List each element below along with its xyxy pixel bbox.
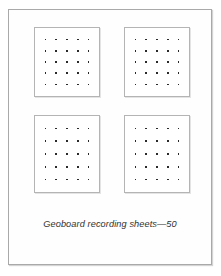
geoboard-peg-dot <box>156 72 158 74</box>
dot-cell <box>72 122 83 135</box>
dot-cell <box>130 160 141 173</box>
dot-grid-bottom-left <box>35 116 99 192</box>
geoboard-peg-dot <box>45 179 47 181</box>
geoboard-peg-dot <box>55 140 57 142</box>
dot-cell <box>152 56 163 67</box>
dot-cell <box>83 68 94 79</box>
dot-cell <box>173 68 184 79</box>
geoboard-peg-dot <box>156 84 158 86</box>
dot-cell <box>141 122 152 135</box>
geoboard-bottom-right[interactable] <box>124 115 190 193</box>
dot-cell <box>40 122 51 135</box>
geoboard-peg-dot <box>178 72 180 74</box>
dot-cell <box>130 68 141 79</box>
dot-cell <box>83 173 94 186</box>
geoboard-peg-dot <box>135 84 137 86</box>
dot-cell <box>130 148 141 161</box>
geoboard-peg-dot <box>77 153 79 155</box>
dot-cell <box>83 148 94 161</box>
worksheet-page: Geoboard recording sheets—50 <box>0 0 221 276</box>
dot-cell <box>83 135 94 148</box>
dot-cell <box>130 135 141 148</box>
dot-grid-top-right <box>125 28 189 96</box>
dot-cell <box>51 160 62 173</box>
dot-cell <box>141 45 152 56</box>
dot-cell <box>83 160 94 173</box>
geoboard-top-left[interactable] <box>34 27 100 97</box>
geoboard-peg-dot <box>45 153 47 155</box>
dot-cell <box>141 135 152 148</box>
dot-cell <box>62 68 73 79</box>
geoboard-peg-dot <box>55 50 57 52</box>
geoboard-peg-dot <box>156 39 158 41</box>
dot-cell <box>62 160 73 173</box>
dot-cell <box>72 45 83 56</box>
geoboard-peg-dot <box>145 72 147 74</box>
geoboard-peg-dot <box>156 61 158 63</box>
dot-cell <box>40 148 51 161</box>
dot-cell <box>152 135 163 148</box>
dot-cell <box>130 34 141 45</box>
dot-cell <box>72 173 83 186</box>
geoboard-peg-dot <box>45 72 47 74</box>
geoboard-peg-dot <box>156 166 158 168</box>
dot-cell <box>130 122 141 135</box>
geoboard-peg-dot <box>156 153 158 155</box>
geoboard-peg-dot <box>145 50 147 52</box>
dot-cell <box>141 173 152 186</box>
dot-cell <box>40 68 51 79</box>
dot-cell <box>162 68 173 79</box>
geoboard-peg-dot <box>88 140 90 142</box>
geoboard-peg-dot <box>145 179 147 181</box>
geoboard-peg-dot <box>88 166 90 168</box>
dot-cell <box>62 45 73 56</box>
dot-cell <box>40 79 51 90</box>
dot-cell <box>141 79 152 90</box>
dot-cell <box>72 68 83 79</box>
geoboard-peg-dot <box>55 166 57 168</box>
geoboard-peg-dot <box>77 84 79 86</box>
dot-cell <box>141 68 152 79</box>
dot-cell <box>40 45 51 56</box>
geoboard-peg-dot <box>135 166 137 168</box>
dot-cell <box>40 34 51 45</box>
dot-cell <box>162 135 173 148</box>
geoboard-peg-dot <box>178 61 180 63</box>
dot-cell <box>152 79 163 90</box>
dot-cell <box>72 148 83 161</box>
geoboard-peg-dot <box>88 39 90 41</box>
geoboard-peg-dot <box>45 166 47 168</box>
geoboard-peg-dot <box>145 140 147 142</box>
dot-cell <box>51 79 62 90</box>
dot-cell <box>62 135 73 148</box>
dot-cell <box>62 148 73 161</box>
geoboard-peg-dot <box>135 128 137 130</box>
geoboard-peg-dot <box>178 166 180 168</box>
geoboard-peg-dot <box>66 50 68 52</box>
geoboard-peg-dot <box>55 179 57 181</box>
geoboard-peg-dot <box>178 128 180 130</box>
dot-cell <box>130 79 141 90</box>
dot-cell <box>72 56 83 67</box>
dot-cell <box>141 148 152 161</box>
dot-cell <box>141 34 152 45</box>
geoboard-top-right[interactable] <box>124 27 190 97</box>
dot-cell <box>162 34 173 45</box>
geoboard-peg-dot <box>88 179 90 181</box>
geoboard-bottom-left[interactable] <box>34 115 100 193</box>
dot-cell <box>173 56 184 67</box>
geoboard-peg-dot <box>55 153 57 155</box>
dot-cell <box>162 148 173 161</box>
geoboard-peg-dot <box>167 128 169 130</box>
dot-cell <box>173 45 184 56</box>
geoboard-peg-dot <box>55 72 57 74</box>
dot-cell <box>83 79 94 90</box>
dot-cell <box>162 56 173 67</box>
geoboard-peg-dot <box>167 166 169 168</box>
dot-cell <box>51 173 62 186</box>
dot-cell <box>130 173 141 186</box>
geoboard-peg-dot <box>88 50 90 52</box>
geoboard-peg-dot <box>135 153 137 155</box>
geoboard-peg-dot <box>77 128 79 130</box>
geoboard-peg-dot <box>135 179 137 181</box>
